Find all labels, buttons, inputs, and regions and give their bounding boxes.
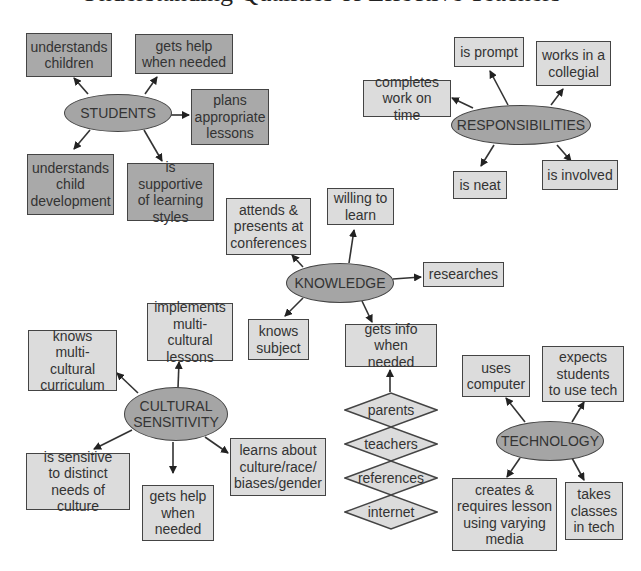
node-takes-classes-in-tech: takesclassesin tech bbox=[565, 482, 623, 540]
hub-label: KNOWLEDGE bbox=[294, 275, 385, 291]
node-plans-appropriate-lessons: plansappropriatelessons bbox=[191, 89, 269, 145]
hub-label: RESPONSIBILITIES bbox=[457, 117, 585, 133]
node-learns-about-culture: learns aboutculture/race/biases/gender bbox=[230, 438, 326, 496]
source-parents: parents bbox=[344, 392, 438, 428]
node-completes-work-on-time: completeswork on time bbox=[363, 80, 451, 117]
node-is-prompt: is prompt bbox=[454, 37, 524, 67]
hub-cultural-sensitivity: CULTURALSENSITIVITY bbox=[124, 387, 228, 441]
node-attends-presents-at-conferences: attends &presents atconferences bbox=[226, 198, 311, 255]
hub-students: STUDENTS bbox=[64, 94, 172, 132]
hub-label: STUDENTS bbox=[80, 105, 155, 121]
hub-knowledge: KNOWLEDGE bbox=[286, 263, 394, 303]
node-gets-info-when-needed: gets infowhen needed bbox=[345, 324, 437, 367]
node-uses-computer: usescomputer bbox=[462, 355, 530, 397]
node-willing-to-learn: willing tolearn bbox=[327, 188, 394, 225]
source-teachers: teachers bbox=[344, 426, 438, 462]
node-is-involved: is involved bbox=[542, 160, 618, 190]
node-creates-requires-lesson-varying-media: creates &requires lessonusing varyingmed… bbox=[452, 478, 557, 551]
node-expects-students-to-use-tech: expectsstudentsto use tech bbox=[542, 346, 624, 402]
node-gets-help-when-needed-cultural: gets helpwhenneeded bbox=[142, 485, 214, 541]
hub-technology: TECHNOLOGY bbox=[496, 421, 604, 461]
hub-responsibilities: RESPONSIBILITIES bbox=[451, 105, 591, 145]
node-supportive-of-learning-styles: is supportiveof learningstyles bbox=[127, 163, 214, 221]
node-understands-children: understandschildren bbox=[26, 33, 112, 77]
node-works-in-a-collegial: works in acollegial bbox=[536, 41, 611, 86]
node-gets-help-when-needed: gets helpwhen needed bbox=[135, 34, 233, 74]
node-knows-subject: knowssubject bbox=[248, 319, 309, 360]
hub-label: TECHNOLOGY bbox=[501, 433, 599, 449]
node-knows-multicultural-curriculum: knowsmulti-culturalcurriculum bbox=[28, 330, 117, 391]
node-implements-multicultural-lessons: implementsmulti-culturallessons bbox=[147, 303, 233, 361]
node-understands-child-development: understandschilddevelopment bbox=[27, 154, 114, 215]
node-is-sensitive-to-distinct-needs: is sensitiveto distinctneeds of culture bbox=[26, 453, 130, 510]
node-is-neat: is neat bbox=[453, 171, 507, 199]
node-researches: researches bbox=[423, 262, 504, 287]
source-references: references bbox=[344, 460, 438, 496]
source-internet: internet bbox=[344, 494, 438, 530]
